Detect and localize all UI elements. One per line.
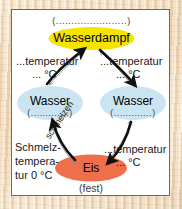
- top-right-temperature-value: ... °C: [116, 68, 141, 80]
- ice-label: Eis: [55, 161, 127, 175]
- top-left-temperature-label: ...temperatur: [16, 55, 78, 67]
- vapor-label: Wasserdampf: [12, 31, 170, 45]
- water-right-blank-below: (.............): [100, 108, 166, 118]
- top-right-temperature-label: ...temperatur: [100, 55, 162, 67]
- top-left-temperature-value: ... °C: [32, 68, 57, 80]
- vapor-blank-above: (.......................): [12, 16, 170, 26]
- water-right-label: Wasser: [100, 94, 166, 108]
- water-left-blank-below: (.............): [17, 108, 83, 118]
- melting-temperature-line-3: tur 0 °C: [15, 169, 52, 181]
- diagram-panel: (.......................) Wasserdampf ..…: [11, 9, 170, 196]
- melting-temperature-line-1: Schmelz-: [15, 141, 61, 153]
- melting-temperature-line-2: tempera-: [15, 155, 59, 167]
- bottom-right-temperature-label: ...temperatur: [104, 143, 166, 155]
- ice-state-label: (fest): [55, 182, 127, 194]
